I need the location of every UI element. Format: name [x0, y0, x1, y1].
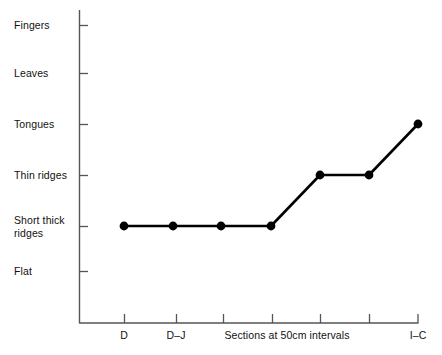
data-point: [120, 222, 129, 231]
series-line: [124, 124, 418, 226]
data-point: [316, 171, 325, 180]
series-markers: [120, 120, 423, 231]
data-point: [217, 222, 226, 231]
plot-area: [0, 0, 442, 355]
chart-canvas: Fingers Leaves Tongues Thin ridges Short…: [0, 0, 442, 355]
data-point: [365, 171, 374, 180]
data-point: [169, 222, 178, 231]
data-point: [267, 222, 276, 231]
y-axis-ticks: [80, 26, 89, 272]
data-point: [414, 120, 423, 129]
x-axis-ticks: [125, 314, 419, 323]
